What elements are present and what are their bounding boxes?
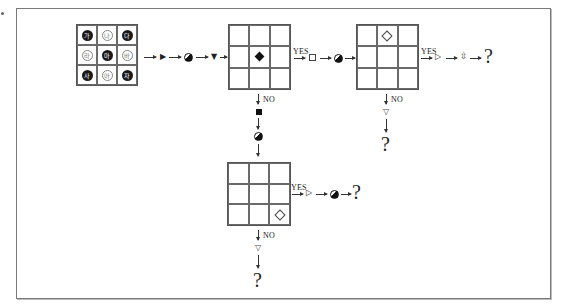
question-mark: ?: [352, 182, 361, 202]
grid-cell: [377, 46, 397, 67]
arrow-down: [258, 118, 259, 129]
grid-cell: 자: [117, 65, 137, 85]
arrow-down: [386, 94, 387, 104]
filled-square-icon: [256, 109, 262, 115]
grid-cell: [270, 25, 290, 46]
triangle-down-hollow-icon: ▽: [383, 108, 389, 116]
grid-cell: [228, 204, 249, 225]
grid-cell: 라: [77, 45, 97, 65]
decision-grid-center: [228, 24, 291, 90]
grid-cell: [249, 25, 269, 46]
triangle-right-hollow-icon: ▷: [306, 189, 312, 197]
hollow-diamond-icon: [382, 30, 393, 41]
yes-label: YES: [293, 47, 309, 56]
arrow-right: [196, 57, 208, 58]
circled-syllable: 바: [122, 50, 133, 61]
arrow-right: [316, 194, 327, 195]
circled-syllable: 마: [102, 50, 113, 61]
grid-cell: 아: [97, 65, 117, 85]
arrow-down: [258, 230, 259, 240]
arrow-right: [421, 58, 432, 59]
half-filled-circle-icon: [254, 132, 263, 141]
circled-syllable: 사: [82, 70, 93, 81]
grid-cell: [228, 184, 249, 205]
circled-syllable: 다: [122, 30, 133, 41]
no-label: NO: [263, 231, 275, 240]
grid-cell: [229, 25, 249, 46]
grid-cell: 다: [117, 25, 137, 45]
triangle-down-hollow-icon: ▽: [255, 244, 261, 252]
grid-cell: [228, 163, 249, 184]
no-label: NO: [391, 95, 403, 104]
half-filled-circle-icon: [334, 54, 343, 63]
grid-cell: [377, 68, 397, 89]
circled-syllable: 자: [122, 70, 133, 81]
arrow-right: [294, 58, 305, 59]
grid-cell: 가: [77, 25, 97, 45]
arrow-right: [144, 57, 156, 58]
arrow-down: [258, 144, 259, 156]
grid-cell: [249, 204, 270, 225]
arrow-down: [258, 255, 259, 268]
grid-cell: [249, 184, 270, 205]
circled-syllable: 아: [102, 70, 113, 81]
question-mark: ?: [253, 270, 262, 290]
hollow-diamond-icon: [274, 209, 285, 220]
grid-cell: [377, 25, 397, 46]
grid-cell: [398, 25, 418, 46]
hollow-square-icon: [309, 54, 316, 61]
triangle-right-hollow-icon: ▷: [435, 53, 441, 61]
question-mark: ?: [381, 134, 390, 154]
circled-syllable: 나: [102, 30, 113, 41]
grid-cell: [269, 163, 290, 184]
grid-cell: [269, 184, 290, 205]
filled-diamond-icon: [255, 52, 265, 62]
grid-cell: [357, 25, 377, 46]
triangle-down-filled-icon: ▼: [211, 53, 217, 61]
triangle-right-filled-icon: ▶: [160, 53, 166, 61]
arrow-right: [345, 58, 355, 59]
circled-syllable: 라: [82, 50, 93, 61]
arrow-down: [258, 94, 259, 104]
start-grid: 가 나 다 라 마 바 사 아 자: [76, 24, 138, 86]
half-filled-circle-icon: [184, 53, 193, 62]
question-mark: ?: [484, 46, 493, 66]
circled-syllable: 가: [82, 30, 93, 41]
grid-cell: 마: [97, 45, 117, 65]
arrow-right: [220, 57, 227, 58]
margin-dot: [1, 12, 4, 15]
grid-cell: [270, 46, 290, 67]
grid-cell: [229, 46, 249, 67]
no-label: NO: [263, 95, 275, 104]
arrow-right: [446, 58, 457, 59]
grid-cell: [270, 68, 290, 89]
yes-label: YES: [291, 183, 307, 192]
up-down-arrow-icon: ⇳: [460, 52, 468, 61]
arrow-right: [169, 57, 181, 58]
grid-cell: 바: [117, 45, 137, 65]
arrow-down: [386, 119, 387, 132]
grid-cell: [357, 46, 377, 67]
grid-cell: 사: [77, 65, 97, 85]
decision-grid-bottom-right: [227, 162, 291, 226]
arrow-right: [341, 194, 351, 195]
grid-cell: [229, 68, 249, 89]
grid-cell: [398, 46, 418, 67]
grid-cell: [269, 204, 290, 225]
grid-cell: [398, 68, 418, 89]
grid-cell: [249, 163, 270, 184]
grid-cell: [249, 68, 269, 89]
grid-cell: [357, 68, 377, 89]
grid-cell: 나: [97, 25, 117, 45]
grid-cell: [249, 46, 269, 67]
half-filled-circle-icon: [330, 190, 339, 199]
arrow-right: [292, 194, 303, 195]
decision-grid-top: [356, 24, 419, 90]
arrow-right: [470, 58, 481, 59]
arrow-right: [320, 58, 331, 59]
